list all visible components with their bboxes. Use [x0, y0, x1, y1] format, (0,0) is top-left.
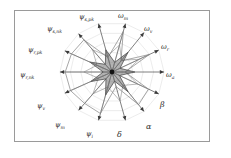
axis-arrowhead: [123, 116, 127, 121]
axis-label-alpha: α: [146, 123, 151, 131]
axis-label-psi-s-nk: ψs,nk: [47, 26, 62, 35]
axis-label-subscript: a: [172, 75, 175, 80]
axis-arrowhead: [98, 116, 102, 121]
axis-label-subscript: r,nk: [26, 75, 35, 80]
axis-label-subscript: v: [43, 106, 46, 111]
axis-arrowhead: [123, 24, 127, 29]
axis-label-psi-i: ψi: [86, 131, 93, 140]
series-polygons: [65, 31, 149, 113]
axis-label-psi-m: ψm: [55, 122, 65, 131]
axis-label-subscript: r: [167, 47, 169, 52]
axis-label-subscript: i: [92, 134, 93, 139]
axis-label-psi-v: ψv: [37, 103, 45, 112]
axis-label-subscript: v: [150, 29, 153, 34]
axis-label-psi-r-pk: ψr,pk: [28, 47, 42, 56]
axis-arrowhead: [160, 70, 164, 74]
axis-label-symbol: α: [146, 122, 151, 131]
axis-label-delta: δ: [117, 131, 122, 139]
axis-label-omega-v: ωv: [144, 26, 152, 35]
axis-label-omega-m: ωm: [118, 13, 128, 22]
radar-chart: [0, 0, 231, 158]
axis-label-symbol: β: [160, 100, 165, 109]
axis-label-subscript: s,pk: [85, 17, 95, 22]
axis-label-omega-r: ωr: [161, 44, 169, 53]
axis-label-subscript: m: [124, 16, 128, 21]
axis-label-subscript: r,pk: [34, 50, 43, 55]
axis-label-beta: β: [160, 101, 165, 109]
axis-label-psi-r-nk: ψr,nk: [20, 72, 34, 81]
center-point: [110, 70, 115, 75]
axis-label-subscript: m: [61, 125, 65, 130]
axis-label-psi-s-pk: ψs,pk: [79, 14, 94, 23]
radar-chart-svg: [0, 0, 231, 158]
axis-arrowhead: [98, 24, 102, 29]
axis-label-subscript: s,nk: [53, 29, 63, 34]
axis-label-omega-a: ωa: [166, 72, 174, 81]
axis-arrowhead: [60, 70, 64, 74]
axis-label-symbol: δ: [117, 130, 122, 139]
